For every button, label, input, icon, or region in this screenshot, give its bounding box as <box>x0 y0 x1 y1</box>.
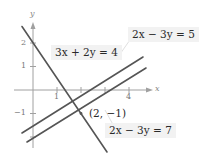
label-3x-plus-2y-eq-4: 3x + 2y = 4 <box>51 45 122 60</box>
y-axis-arrow-icon <box>31 22 36 29</box>
x-axis-arrow-icon <box>146 88 153 93</box>
label-2x-minus-3y-eq-7: 2x − 3y = 7 <box>105 123 176 138</box>
label-2x-minus-3y-eq-5: 2x − 3y = 5 <box>128 27 199 42</box>
y-tick-label-2: 2 <box>21 38 26 47</box>
y-axis-label: y <box>30 9 35 18</box>
intersection-point <box>80 112 83 115</box>
y-tick-label-1: 1 <box>21 61 26 70</box>
x-tick-label-4: 4 <box>126 92 131 101</box>
intersection-label: (2, −1) <box>89 107 126 119</box>
x-axis-label: x <box>155 84 160 93</box>
line-2x-minus-3y-eq-5 <box>22 57 143 133</box>
x-tick-label-1: 1 <box>54 92 59 101</box>
y-tick-label-neg1: −1 <box>14 108 26 117</box>
